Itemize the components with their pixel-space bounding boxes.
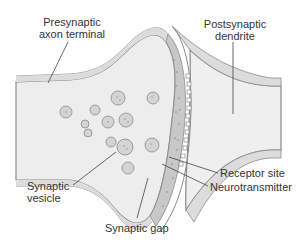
postsynaptic-label: Postsynaptic dendrite — [200, 18, 270, 42]
presynaptic-label: Presynaptic axon terminal — [34, 16, 110, 40]
synaptic-vesicle-label-line1: Synaptic — [27, 180, 69, 192]
postsynaptic-label-line1: Postsynaptic — [200, 18, 270, 30]
synaptic-gap-label: Synaptic gap — [105, 222, 169, 234]
receptor-site-label: Receptor site — [220, 167, 285, 179]
neurotransmitter-label: Neurotransmitter — [210, 181, 292, 193]
postsynaptic-label-line2: dendrite — [200, 30, 270, 42]
synapse-diagram: Presynaptic axon terminal Postsynaptic d… — [0, 0, 297, 250]
synaptic-vesicle-label-line2: vesicle — [27, 192, 69, 204]
presynaptic-label-line1: Presynaptic — [34, 16, 110, 28]
synaptic-vesicle-label: Synaptic vesicle — [27, 180, 69, 204]
presynaptic-label-line2: axon terminal — [34, 28, 110, 40]
